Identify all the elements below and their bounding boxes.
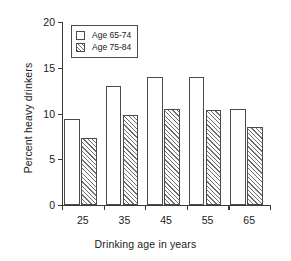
x-tick-label: 45 <box>160 214 172 226</box>
x-tick-label: 55 <box>202 214 214 226</box>
x-tick-label: 35 <box>119 214 131 226</box>
y-axis-label: Percent heavy drinkers <box>22 28 34 208</box>
y-tick-mark <box>58 114 63 115</box>
legend-item-label: Age 65-74 <box>92 31 131 40</box>
x-tick-mark <box>145 205 146 210</box>
bar <box>206 110 222 205</box>
bar <box>147 77 163 205</box>
x-tick-label: 25 <box>77 214 89 226</box>
x-tick-mark <box>187 205 188 210</box>
y-tick-label: 5 <box>49 153 55 165</box>
y-tick-mark <box>58 68 63 69</box>
x-axis-line <box>62 205 270 206</box>
bar <box>81 138 97 205</box>
x-tick-label: 65 <box>243 214 255 226</box>
x-tick-mark <box>62 205 63 210</box>
legend-item: Age 75-84 <box>76 42 131 53</box>
bar <box>189 77 205 205</box>
legend-swatch-plain-icon <box>76 31 85 40</box>
bar <box>230 109 246 205</box>
y-tick-label: 20 <box>43 16 55 28</box>
x-tick-mark <box>228 205 229 210</box>
legend: Age 65-74 Age 75-84 <box>71 25 138 58</box>
legend-item-label: Age 75-84 <box>92 43 131 52</box>
y-tick-mark <box>58 22 63 23</box>
bar <box>164 109 180 205</box>
bar-chart-figure: Percent heavy drinkers Drinking age in y… <box>0 0 291 261</box>
x-tick-mark <box>270 205 271 210</box>
y-tick-label: 10 <box>43 108 55 120</box>
y-tick-mark <box>58 159 63 160</box>
legend-swatch-hatch-icon <box>76 43 85 52</box>
x-axis-label: Drinking age in years <box>0 238 291 250</box>
bar <box>247 127 263 205</box>
bar <box>64 119 80 205</box>
y-axis-line <box>62 22 63 205</box>
y-tick-label: 15 <box>43 62 55 74</box>
legend-item: Age 65-74 <box>76 30 131 41</box>
x-tick-mark <box>104 205 105 210</box>
bar <box>123 115 139 205</box>
bar <box>106 86 122 205</box>
y-tick-label: 0 <box>49 199 55 211</box>
